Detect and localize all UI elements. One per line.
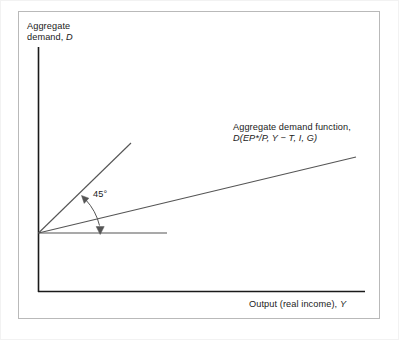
y-axis-label-variable: D <box>66 32 73 42</box>
diagram-canvas <box>0 0 399 340</box>
angle-label: 45° <box>93 189 107 200</box>
x-axis-label: Output (real income), Y <box>249 299 346 310</box>
aggregate-demand-function-label: Aggregate demand function, D(EP*/P, Y − … <box>233 122 351 145</box>
aggregate-demand-line <box>39 157 357 233</box>
ad-function-label-line1: Aggregate demand function, <box>233 122 351 132</box>
y-axis-label: Aggregate demand, D <box>27 21 73 44</box>
ad-function-label-formula: D(EP*/P, Y − T, I, G) <box>233 133 317 143</box>
y-axis-label-line1: Aggregate <box>27 21 70 31</box>
figure-container: Aggregate demand, D Aggregate demand fun… <box>0 0 399 340</box>
x-axis-label-prefix: Output (real income), <box>249 299 340 309</box>
y-axis-label-line2-prefix: demand, <box>27 32 66 42</box>
x-axis-label-variable: Y <box>340 299 346 309</box>
forty-five-degree-line <box>39 143 132 233</box>
